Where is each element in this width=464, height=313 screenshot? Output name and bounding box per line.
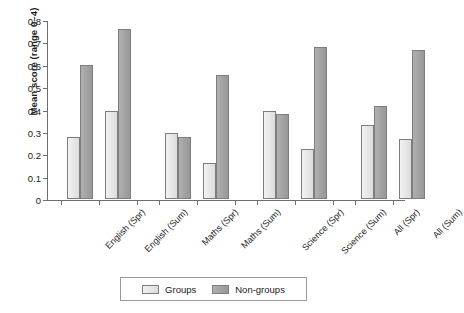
x-axis-tick-mark [333, 201, 334, 205]
x-axis-tick-mark [61, 201, 62, 205]
bar [399, 139, 412, 199]
bar [263, 111, 276, 199]
y-axis-tick-mark [43, 21, 47, 22]
bar [374, 106, 387, 199]
y-axis-tick-label: 0.5 [28, 83, 41, 94]
y-axis-tick-label: 0.4 [28, 105, 41, 116]
bar [118, 29, 131, 199]
y-axis-tick-mark [43, 133, 47, 134]
x-axis-category-label: Science (Spr) [300, 207, 346, 253]
x-axis-tick-mark [355, 201, 356, 205]
bar [80, 65, 93, 199]
legend-entry: Non-groups [212, 284, 285, 295]
x-axis-tick-mark [235, 201, 236, 205]
x-axis-tick-mark [393, 201, 394, 205]
bar [105, 111, 118, 199]
legend-label: Non-groups [235, 284, 285, 295]
y-axis-tick-label: 0.1 [28, 172, 41, 183]
y-axis-tick-label: 0.2 [28, 150, 41, 161]
bar [67, 137, 80, 199]
x-axis-category-label: Maths (Sum) [239, 207, 282, 250]
y-axis-tick-mark [43, 178, 47, 179]
x-axis-category-label: All (Spr) [392, 207, 422, 237]
x-axis-tick-mark [197, 201, 198, 205]
bar [216, 75, 229, 199]
x-axis-line [47, 200, 405, 201]
bar [314, 47, 327, 199]
x-axis-category-label: All (Sum) [431, 207, 464, 240]
y-axis-tick-mark [43, 155, 47, 156]
y-axis-tick-label: 0.3 [28, 127, 41, 138]
bar [203, 163, 216, 199]
bar [276, 114, 289, 199]
x-axis-category-label: English (Sum) [143, 207, 190, 254]
y-axis-tick-mark [43, 200, 47, 201]
x-axis-category-label: Maths (Spr) [200, 207, 240, 247]
bar [301, 149, 314, 199]
plot-area: 00.10.20.30.40.50.60.70.8 English (Spr)E… [47, 21, 405, 200]
y-axis-tick-mark [43, 43, 47, 44]
legend-label: Groups [165, 284, 196, 295]
x-axis-tick-mark [159, 201, 160, 205]
x-axis-tick-mark [295, 201, 296, 205]
x-axis-tick-mark [257, 201, 258, 205]
y-axis-tick-label: 0.6 [28, 60, 41, 71]
bar [412, 50, 425, 199]
x-axis-category-label: English (Spr) [103, 207, 147, 251]
legend-swatch [212, 285, 229, 294]
y-axis-tick-label: 0.8 [28, 16, 41, 27]
bar [361, 125, 374, 199]
x-axis-category-label: Science (Sum) [339, 207, 388, 256]
bar [165, 133, 178, 199]
y-axis-tick-label: 0.7 [28, 38, 41, 49]
y-axis-tick-label: 0 [36, 195, 41, 206]
chart-legend: GroupsNon-groups [120, 277, 307, 301]
legend-swatch [142, 285, 159, 294]
x-axis-tick-mark [99, 201, 100, 205]
y-axis-tick-mark [43, 66, 47, 67]
y-axis-tick-mark [43, 88, 47, 89]
y-axis-line [47, 21, 48, 201]
legend-entry: Groups [142, 284, 196, 295]
x-axis-tick-mark [137, 201, 138, 205]
y-axis-tick-mark [43, 111, 47, 112]
bar [178, 137, 191, 199]
